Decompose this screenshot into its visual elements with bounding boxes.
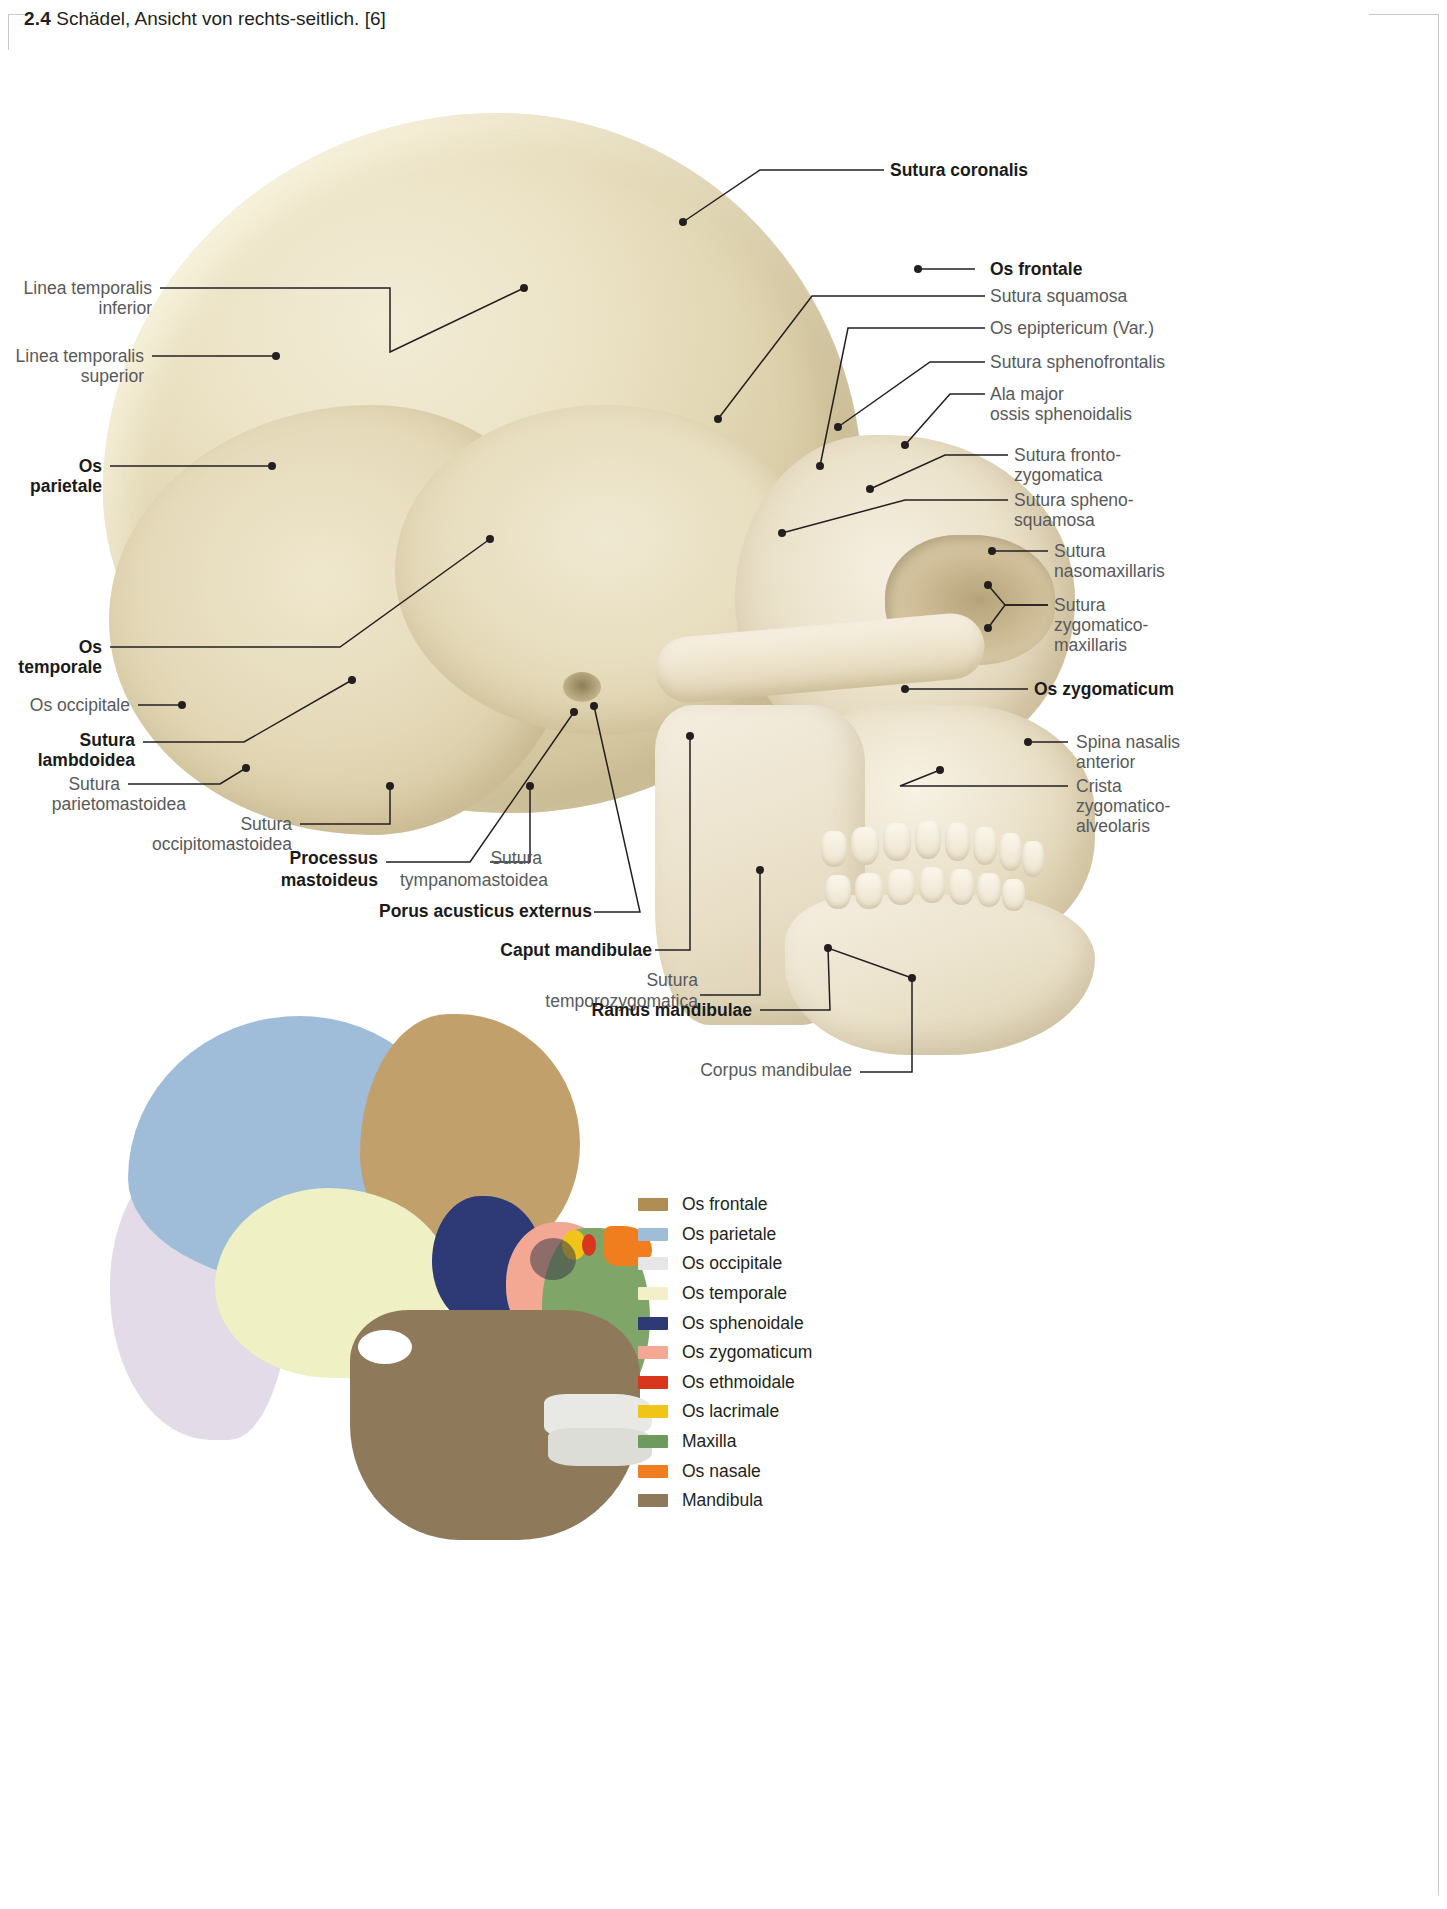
figure-number: 2.4	[24, 8, 51, 29]
tooth	[887, 869, 915, 905]
tooth	[999, 833, 1022, 871]
label-ala-major: Ala major	[990, 384, 1064, 405]
label-spina-nasalis-anterior-line2: anterior	[1076, 752, 1135, 773]
label-crista-zygomaticoalveolaris-line2: zygomatico-	[1076, 796, 1170, 817]
label-sutura-zygomaticomaxillaris-line2: zygomatico-	[1054, 615, 1148, 636]
tooth	[825, 875, 851, 909]
label-os-parietale: Os	[0, 456, 102, 477]
label-spina-nasalis-anterior: Spina nasalis	[1076, 732, 1180, 753]
legend-swatch-os-occipitale	[638, 1257, 668, 1270]
label-sutura-tympanomastoidea-line2: tympanomastoidea	[400, 870, 542, 891]
label-os-epiptericum: Os epiptericum (Var.)	[990, 318, 1154, 339]
label-linea-temporalis-inferior-line2: inferior	[0, 298, 152, 319]
tooth	[851, 827, 879, 865]
legend-swatch-os-ethmoidale	[638, 1376, 668, 1389]
legend-item: Os lacrimale	[638, 1397, 812, 1427]
label-processus-mastoideus: Processus	[230, 848, 378, 869]
label-sutura-coronalis: Sutura coronalis	[890, 160, 1028, 181]
legend-item: Os occipitale	[638, 1249, 812, 1279]
external-acoustic-porus	[563, 672, 601, 702]
tooth	[949, 869, 974, 905]
page-rule-top-right	[1369, 14, 1439, 15]
tooth	[919, 867, 945, 903]
figure-title: Schädel, Ansicht von rechts-seitlich. [6…	[56, 8, 386, 29]
legend-item: Os frontale	[638, 1190, 812, 1220]
label-ala-major-line2: ossis sphenoidalis	[990, 404, 1132, 425]
label-sutura-sphenosquamosa-line2: squamosa	[1014, 510, 1095, 531]
bone-color-legend: Os frontale Os parietale Os occipitale O…	[638, 1190, 812, 1516]
label-sutura-lambdoidea-line2: lambdoidea	[0, 750, 135, 771]
tooth	[1002, 879, 1025, 911]
label-os-zygomaticum: Os zygomaticum	[1034, 679, 1174, 700]
label-sutura-nasomaxillaris: Sutura	[1054, 541, 1106, 562]
legend-swatch-os-sphenoidale	[638, 1317, 668, 1330]
legend-swatch-os-nasale	[638, 1465, 668, 1478]
legend-label-os-nasale: Os nasale	[682, 1461, 761, 1482]
label-sutura-lambdoidea: Sutura	[0, 730, 135, 751]
legend-item: Os parietale	[638, 1220, 812, 1250]
legend-label-os-occipitale: Os occipitale	[682, 1253, 782, 1274]
label-os-temporale: Os	[0, 637, 102, 658]
tooth	[855, 873, 883, 909]
tooth	[973, 827, 997, 865]
label-sutura-zygomaticomaxillaris-line3: maxillaris	[1054, 635, 1127, 656]
legend-item: Maxilla	[638, 1427, 812, 1457]
skull-lateral-photograph	[95, 105, 1105, 1085]
label-sutura-sphenosquamosa: Sutura spheno-	[1014, 490, 1134, 511]
label-sutura-sphenofrontalis: Sutura sphenofrontalis	[990, 352, 1165, 373]
legend-label-os-temporale: Os temporale	[682, 1283, 787, 1304]
tooth	[915, 821, 941, 859]
color-region-external-acoustic-meatus	[358, 1330, 412, 1364]
mandibular-body-region	[785, 895, 1095, 1055]
color-region-orbit	[530, 1238, 576, 1280]
legend-item: Mandibula	[638, 1486, 812, 1516]
label-linea-temporalis-superior: Linea temporalis	[0, 346, 144, 367]
legend-label-os-zygomaticum: Os zygomaticum	[682, 1342, 812, 1363]
label-os-occipitale: Os occipitale	[0, 695, 130, 716]
label-sutura-frontozygomatica: Sutura fronto-	[1014, 445, 1121, 466]
label-sutura-occipitomastoidea: Sutura	[120, 814, 292, 835]
figure-caption: 2.4 Schädel, Ansicht von rechts-seitlich…	[24, 8, 386, 30]
tooth	[977, 873, 1001, 907]
page-canvas: 2.4 Schädel, Ansicht von rechts-seitlich…	[0, 0, 1447, 1909]
legend-label-maxilla: Maxilla	[682, 1431, 736, 1452]
label-sutura-parietomastoidea: Sutura	[0, 774, 120, 795]
label-porus-acusticus-externus: Porus acusticus externus	[360, 901, 592, 922]
label-linea-temporalis-inferior: Linea temporalis	[0, 278, 152, 299]
tooth	[821, 831, 847, 867]
label-os-parietale-line2: parietale	[0, 476, 102, 497]
color-region-teeth-lower	[548, 1428, 652, 1466]
legend-swatch-os-lacrimale	[638, 1405, 668, 1418]
legend-item: Os sphenoidale	[638, 1308, 812, 1338]
legend-item: Os temporale	[638, 1279, 812, 1309]
label-sutura-squamosa: Sutura squamosa	[990, 286, 1127, 307]
skull-color-coded-diagram	[110, 1010, 630, 1550]
label-os-frontale: Os frontale	[990, 259, 1082, 280]
legend-swatch-os-frontale	[638, 1198, 668, 1211]
label-sutura-frontozygomatica-line2: zygomatica	[1014, 465, 1103, 486]
legend-swatch-os-parietale	[638, 1228, 668, 1241]
label-crista-zygomaticoalveolaris: Crista	[1076, 776, 1122, 797]
legend-label-os-frontale: Os frontale	[682, 1194, 768, 1215]
legend-swatch-maxilla	[638, 1435, 668, 1448]
tooth	[883, 823, 911, 861]
legend-swatch-mandibula	[638, 1494, 668, 1507]
tooth	[945, 823, 970, 861]
legend-label-os-lacrimale: Os lacrimale	[682, 1401, 779, 1422]
legend-swatch-os-temporale	[638, 1287, 668, 1300]
tooth	[1022, 841, 1044, 877]
label-processus-mastoideus-line2: mastoideus	[230, 870, 378, 891]
label-sutura-tympanomastoidea: Sutura	[400, 848, 542, 869]
label-sutura-parietomastoidea-line2: parietomastoidea	[0, 794, 186, 815]
label-os-temporale-line2: temporale	[0, 657, 102, 678]
legend-item: Os zygomaticum	[638, 1338, 812, 1368]
legend-item: Os nasale	[638, 1456, 812, 1486]
legend-label-os-ethmoidale: Os ethmoidale	[682, 1372, 795, 1393]
legend-swatch-os-zygomaticum	[638, 1346, 668, 1359]
label-caput-mandibulae: Caput mandibulae	[420, 940, 652, 961]
label-linea-temporalis-superior-line2: superior	[0, 366, 144, 387]
color-region-os-ethmoidale	[582, 1234, 596, 1256]
legend-label-os-parietale: Os parietale	[682, 1224, 776, 1245]
label-corpus-mandibulae: Corpus mandibulae	[600, 1060, 852, 1081]
legend-label-mandibula: Mandibula	[682, 1490, 763, 1511]
